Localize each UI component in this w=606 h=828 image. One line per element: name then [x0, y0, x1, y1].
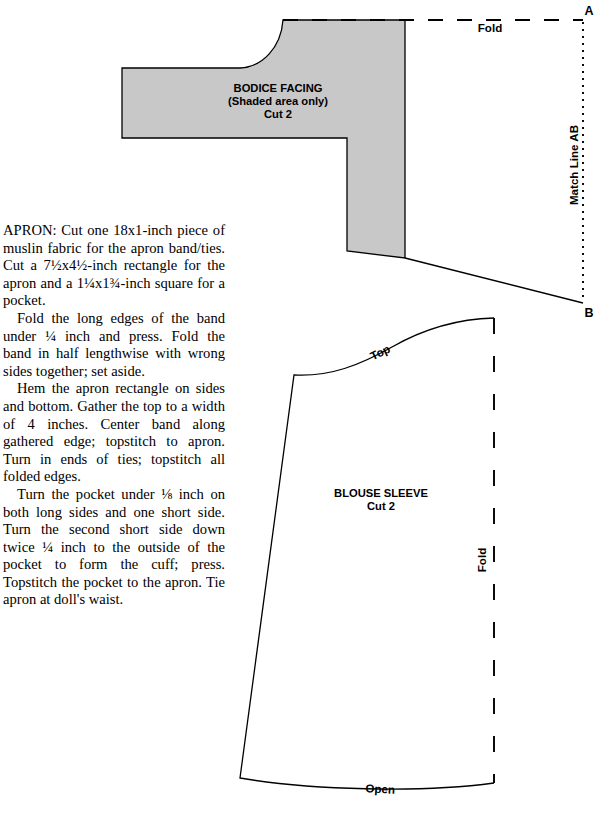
apron-instructions: APRON: Cut one 18x1-inch piece of muslin… [3, 222, 225, 609]
instruction-paragraph: Turn the pocket under ⅛ inch on both lon… [3, 486, 225, 609]
blouse-sleeve-title: BLOUSE SLEEVE [334, 487, 428, 499]
instruction-paragraph: Fold the long edges of the band under ¼ … [3, 310, 225, 380]
bodice-facing-title: BODICE FACING [234, 82, 323, 94]
bodice-match-slant-line [405, 258, 583, 303]
pattern-sheet-page: BODICE FACING (Shaded area only) Cut 2 F… [0, 0, 606, 828]
blouse-sleeve-cut: Cut 2 [367, 500, 395, 512]
instruction-paragraph: APRON: Cut one 18x1-inch piece of muslin… [3, 222, 225, 310]
sleeve-top-label: Top [368, 342, 392, 363]
sleeve-open-label: Open [365, 781, 395, 796]
match-line-ab-label: Match Line AB [567, 125, 580, 205]
instruction-paragraph: Hem the apron rectangle on sides and bot… [3, 380, 225, 486]
bodice-fold-label: Fold [478, 21, 502, 34]
bodice-facing-cut: Cut 2 [264, 108, 292, 120]
point-a-label: A [584, 4, 593, 18]
bodice-facing-subtitle: (Shaded area only) [228, 95, 328, 107]
sleeve-fold-label: Fold [475, 548, 488, 572]
blouse-sleeve-shape [240, 318, 494, 789]
point-b-label: B [584, 306, 593, 320]
